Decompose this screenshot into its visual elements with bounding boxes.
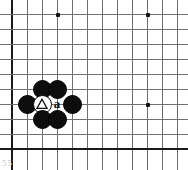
- star-point-top-right-icon: [146, 13, 150, 17]
- grid-line-vertical-8: [132, 0, 133, 170]
- grid-line-vertical-9: [147, 0, 148, 170]
- grid-line-horizontal-0: [0, 14, 188, 15]
- go-diagram-screenshot: a 55: [0, 0, 188, 170]
- grid-line-vertical-4: [72, 0, 73, 170]
- diagram-caption: 55: [2, 158, 13, 168]
- grid-line-vertical-11: [177, 0, 178, 170]
- grid-line-horizontal-2: [0, 44, 188, 45]
- go-board[interactable]: a: [0, 0, 188, 170]
- grid-line-vertical-5: [87, 0, 88, 170]
- grid-line-vertical-0: [11, 0, 13, 170]
- black-stone-south-east[interactable]: [48, 110, 67, 129]
- triangle-mark-icon: [36, 98, 48, 110]
- grid-line-horizontal-7: [0, 119, 188, 120]
- black-stone-east[interactable]: [63, 95, 82, 114]
- point-label-a[interactable]: a: [50, 96, 64, 112]
- grid-line-horizontal-3: [0, 59, 188, 60]
- grid-line-horizontal-9: [0, 148, 188, 150]
- grid-line-vertical-10: [162, 0, 163, 170]
- star-point-top-left-icon: [56, 13, 60, 17]
- grid-line-vertical-1: [27, 0, 28, 170]
- grid-line-vertical-7: [117, 0, 118, 170]
- grid-line-horizontal-5: [0, 89, 188, 90]
- grid-line-horizontal-8: [0, 134, 188, 135]
- grid-line-horizontal-4: [0, 74, 188, 75]
- grid-line-vertical-6: [102, 0, 103, 170]
- grid-line-horizontal-1: [0, 29, 188, 30]
- star-point-center-icon: [146, 103, 150, 107]
